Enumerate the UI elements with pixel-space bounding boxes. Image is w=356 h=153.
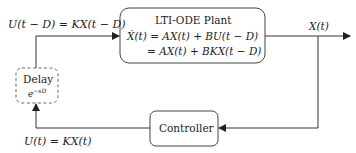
plant-title: LTI-ODE Plant [155, 14, 232, 26]
control-arrow [36, 104, 150, 128]
delayed-input-label: U(t − D) = KX(t − D) [8, 19, 126, 30]
output-label: X(t) [309, 21, 329, 32]
plant-equation-1: Ẋ(t) = AX(t) + BU(t − D) [127, 31, 258, 42]
delay-transfer-exponent: −sD [33, 87, 46, 94]
control-label: U(t) = KX(t) [24, 136, 92, 147]
controller-title: Controller [159, 122, 214, 134]
delay-transfer: e−sD [28, 88, 46, 99]
delay-title: Delay [23, 73, 53, 85]
delayed-input-arrow [36, 36, 119, 68]
plant-equation-2: = AX(t) + BKX(t − D) [147, 46, 261, 57]
